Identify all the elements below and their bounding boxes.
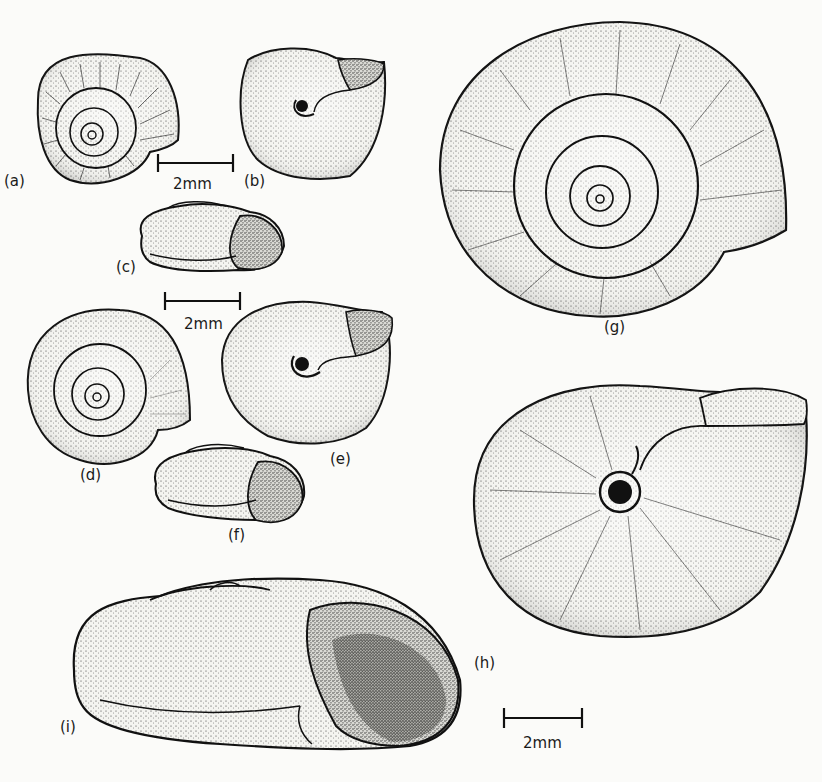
label-i: (i) — [60, 718, 76, 736]
scale-bar-2-label: 2mm — [184, 315, 223, 333]
scale-bar-1-graphic — [158, 154, 233, 172]
shell-i-drawing — [74, 579, 461, 750]
label-e: (e) — [330, 450, 351, 468]
shell-h-drawing — [474, 385, 807, 637]
shell-c-drawing — [141, 202, 284, 271]
scale-bar-1-label: 2mm — [173, 175, 212, 193]
scale-bar-3-label: 2mm — [523, 734, 562, 752]
label-d: (d) — [80, 466, 101, 484]
label-g: (g) — [604, 318, 625, 336]
label-b: (b) — [244, 172, 265, 190]
shell-f-drawing — [155, 445, 304, 523]
shell-g-drawing — [440, 22, 786, 316]
shell-plate-illustration — [0, 0, 822, 782]
label-f: (f) — [228, 526, 245, 544]
scale-bar-2-graphic — [165, 292, 240, 310]
label-h: (h) — [474, 654, 495, 672]
shell-d-drawing — [28, 310, 190, 464]
label-c: (c) — [116, 258, 136, 276]
shell-b-drawing — [241, 48, 386, 179]
shell-e-drawing — [222, 302, 392, 444]
scale-bar-3-graphic — [504, 708, 582, 728]
label-a: (a) — [4, 172, 25, 190]
